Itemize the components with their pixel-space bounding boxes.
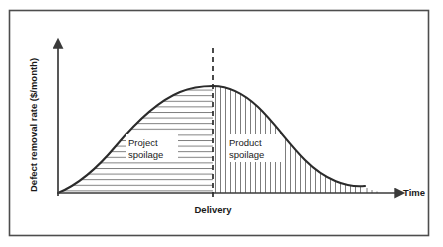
product-spoilage-label-line1: Product (229, 137, 262, 148)
product-spoilage-label-line2: spoilage (229, 149, 264, 160)
chart-figure: Project spoilage Product spoilage Defect… (0, 0, 443, 247)
y-axis-title: Defect removal rate ($/month) (28, 58, 39, 192)
project-spoilage-label-line1: Project (128, 137, 158, 148)
x-axis-title: Time (403, 187, 425, 198)
project-spoilage-label-line2: spoilage (128, 149, 163, 160)
defect-removal-rate-chart: Project spoilage Product spoilage Defect… (0, 0, 443, 247)
delivery-label: Delivery (195, 204, 233, 215)
